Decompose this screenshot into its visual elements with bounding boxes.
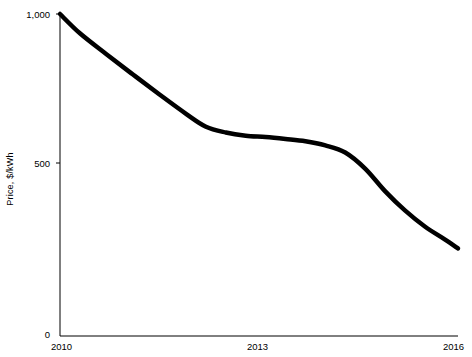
chart-container: Price, $/kWh 1,000 500 0 2010 2013 2016	[0, 0, 472, 357]
chart-plot-area	[0, 0, 472, 357]
line-series-battery-pack-price	[60, 14, 458, 248]
